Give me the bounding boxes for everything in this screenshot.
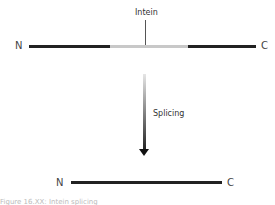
spliced-protein: [71, 181, 222, 184]
precursor-n-terminus-label: N: [15, 41, 22, 51]
figure-caption: Figure 16.XX: Intein splicing: [0, 198, 98, 205]
product-c-terminus-label: C: [227, 178, 234, 188]
product-n-terminus-label: N: [56, 178, 63, 188]
c-extein-segment: [188, 45, 256, 48]
splicing-arrow-shaft: [143, 74, 146, 150]
intein-label: Intein: [135, 9, 158, 17]
intein-segment: [110, 45, 188, 48]
n-extein-segment: [29, 45, 110, 48]
intein-pointer-line: [145, 20, 146, 45]
splicing-label: Splicing: [153, 110, 184, 118]
precursor-c-terminus-label: C: [261, 41, 268, 51]
splicing-arrow-head-icon: [139, 149, 149, 156]
